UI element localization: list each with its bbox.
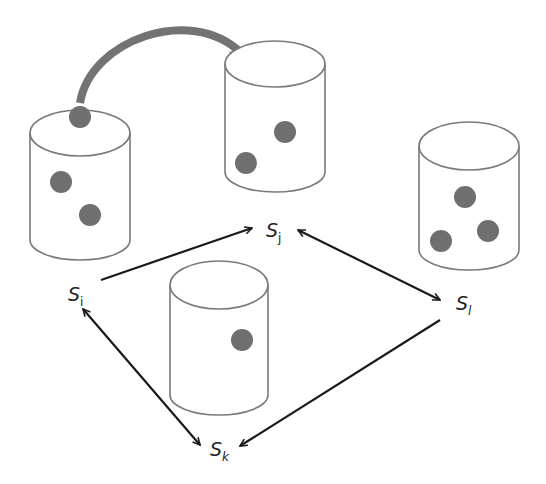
data-item-dot bbox=[430, 230, 452, 252]
migration-arrow bbox=[80, 30, 249, 103]
cylinder-store-l bbox=[419, 122, 519, 270]
data-item-dot bbox=[79, 204, 101, 226]
data-item-dot bbox=[274, 121, 296, 143]
cylinder-store-i bbox=[30, 106, 130, 260]
cylinder-store-j bbox=[225, 41, 325, 192]
data-item-dot bbox=[235, 152, 257, 174]
node-label-i: Si bbox=[68, 283, 83, 309]
node-label-j: Sj bbox=[266, 219, 281, 245]
cylinder-store-k bbox=[170, 261, 268, 415]
data-item-dot bbox=[69, 106, 91, 128]
data-item-dot bbox=[50, 171, 72, 193]
data-item-dot bbox=[231, 329, 253, 351]
node-label-k: Sk bbox=[210, 438, 230, 464]
data-item-dot bbox=[454, 186, 476, 208]
node-label-l: Sl bbox=[456, 292, 472, 318]
data-item-dot bbox=[477, 220, 499, 242]
replication-diagram: Si Sj Sl Sk bbox=[0, 0, 546, 484]
edge-l-to-k bbox=[240, 320, 440, 446]
